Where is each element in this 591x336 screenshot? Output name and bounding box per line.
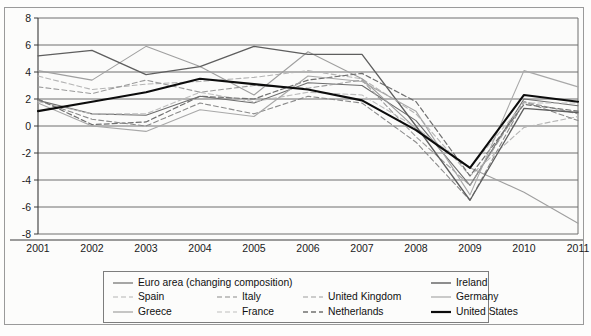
ytick-label: 2 (25, 93, 31, 105)
ytick-label: 0 (25, 120, 31, 132)
legend-label: Spain (134, 292, 164, 302)
ytick-label: 6 (25, 39, 31, 51)
legend-swatch-italy (216, 293, 238, 301)
legend-label: Ireland (452, 278, 487, 288)
legend-label: United States (452, 307, 518, 317)
ytick-label: -8 (22, 228, 31, 240)
legend-item-united-kingdom[interactable]: United Kingdom (302, 292, 430, 302)
xtick-label: 2003 (134, 242, 158, 254)
legend-label: United Kingdom (324, 292, 401, 302)
ytick-label: -2 (22, 147, 31, 159)
legend-item-netherlands[interactable]: Netherlands (302, 307, 430, 317)
legend-item-greece[interactable]: Greece (112, 307, 216, 317)
legend-label: Netherlands (324, 307, 384, 317)
legend-item-france[interactable]: France (216, 307, 302, 317)
legend-swatch-euro-area-changing-composition (112, 279, 134, 287)
xtick-label: 2011 (567, 242, 590, 254)
legend-item-ireland[interactable]: Ireland (430, 278, 487, 288)
legend-item-united-states[interactable]: United States (430, 307, 518, 317)
ytick-label: 8 (25, 12, 31, 24)
xtick-label: 2010 (512, 242, 536, 254)
legend-swatch-greece (112, 308, 134, 316)
ytick-label: -4 (22, 174, 31, 186)
legend-row: GreeceFranceNetherlandsUnited States (112, 305, 482, 319)
legend-item-euro-area-changing-composition[interactable]: Euro area (changing composition) (112, 278, 430, 288)
legend-swatch-france (216, 308, 238, 316)
legend-row: Euro area (changing composition)Ireland (112, 276, 482, 290)
legend-swatch-spain (112, 293, 134, 301)
legend-label: Greece (134, 307, 172, 317)
legend-item-spain[interactable]: Spain (112, 292, 216, 302)
xtick-label: 2008 (404, 242, 428, 254)
ytick-label: 4 (25, 66, 31, 78)
xtick-label: 2009 (458, 242, 482, 254)
legend-swatch-united-kingdom (302, 293, 324, 301)
legend-item-germany[interactable]: Germany (430, 292, 498, 302)
legend-swatch-germany (430, 293, 452, 301)
legend-swatch-united-states (430, 308, 452, 316)
legend-row: SpainItalyUnited KingdomGermany (112, 290, 482, 304)
legend-item-italy[interactable]: Italy (216, 292, 302, 302)
legend-label: Italy (238, 292, 261, 302)
chart-figure: 86420-2-4-6-8200120022003200420052006200… (0, 0, 591, 336)
legend-swatch-ireland (430, 279, 452, 287)
xtick-label: 2006 (296, 242, 320, 254)
legend-label: Euro area (changing composition) (134, 278, 293, 288)
xtick-label: 2002 (80, 242, 104, 254)
legend-swatch-netherlands (302, 308, 324, 316)
legend-label: Germany (452, 292, 498, 302)
chart-legend: Euro area (changing composition)IrelandS… (103, 271, 489, 323)
xtick-label: 2001 (26, 242, 50, 254)
legend-label: France (238, 307, 274, 317)
xtick-label: 2004 (188, 242, 212, 254)
ytick-label: -6 (22, 201, 31, 213)
xtick-label: 2007 (350, 242, 374, 254)
xtick-label: 2005 (242, 242, 266, 254)
